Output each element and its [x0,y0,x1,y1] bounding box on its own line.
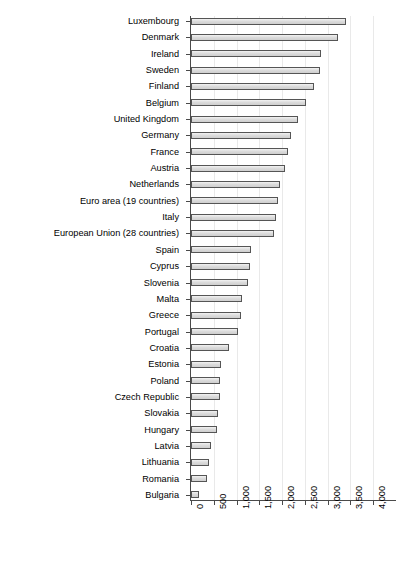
bar [191,312,241,319]
bar-row [191,81,396,91]
bar [191,328,238,335]
x-axis-tick-label: 500 [218,494,228,509]
bar-row [191,343,396,353]
bar [191,361,221,368]
bar-row [191,278,396,288]
bar-row [191,32,396,42]
y-axis-tick [186,217,190,218]
y-axis-tick [186,348,190,349]
x-axis-tick [373,500,374,505]
category-label: Germany [0,130,185,140]
x-axis-tick [282,500,283,505]
y-axis-tick [186,21,190,22]
bar-row [191,147,396,157]
bar [191,50,321,57]
category-label: Spain [0,245,185,255]
y-axis-tick [186,250,190,251]
bar [191,18,346,25]
y-axis-tick [186,479,190,480]
bar-row [191,408,396,418]
bar-row [191,49,396,59]
bar-row [191,130,396,140]
bar-row [191,179,396,189]
x-axis-tick-label: 0 [195,504,205,509]
category-label: Bulgaria [0,490,185,500]
x-axis-tick [214,500,215,505]
y-axis-tick [186,103,190,104]
x-axis-tick-label: 1,500 [263,486,273,509]
bar [191,344,229,351]
y-axis-tick [186,283,190,284]
category-label: Luxembourg [0,16,185,26]
bar-row [191,425,396,435]
bar-row [191,228,396,238]
x-axis-tick-label: 4,000 [377,486,387,509]
x-axis-tick [328,500,329,505]
x-axis-tick [305,500,306,505]
bar-row [191,245,396,255]
y-axis-tick [186,397,190,398]
bar [191,295,242,302]
y-axis-tick [186,332,190,333]
category-label: Slovakia [0,408,185,418]
category-label: European Union (28 countries) [0,228,185,238]
y-axis-tick [186,184,190,185]
bar [191,67,320,74]
y-axis-tick [186,168,190,169]
x-axis-tick [259,500,260,505]
y-axis-tick [186,266,190,267]
bar-row [191,261,396,271]
y-axis-tick [186,54,190,55]
bar-row [191,359,396,369]
bar-row [191,212,396,222]
bar [191,410,218,417]
category-label: Sweden [0,65,185,75]
category-label: Hungary [0,425,185,435]
x-axis-tick-label: 3,000 [332,486,342,509]
y-axis-tick [186,495,190,496]
plot-area: LuxembourgDenmarkIrelandSwedenFinlandBel… [0,0,396,562]
bar [191,426,217,433]
category-label: Poland [0,376,185,386]
bar-row [191,310,396,320]
y-axis-tick [186,299,190,300]
bar [191,165,285,172]
bar [191,34,338,41]
category-label: Finland [0,81,185,91]
y-axis-tick [186,119,190,120]
bar-row [191,457,396,467]
category-label: Malta [0,294,185,304]
bar [191,475,207,482]
category-label: Portugal [0,327,185,337]
bar [191,491,199,498]
bar-row [191,65,396,75]
x-axis-tick-labels: 05001,0001,5002,0002,5003,0003,5004,0004… [191,507,396,557]
bar [191,263,250,270]
bars-panel [191,16,396,500]
y-axis-tick [186,152,190,153]
y-axis-tick [186,413,190,414]
category-label: Netherlands [0,179,185,189]
bar [191,116,298,123]
y-axis-tick [186,37,190,38]
category-label: Ireland [0,49,185,59]
category-label: Latvia [0,441,185,451]
bar [191,132,291,139]
bar-row [191,98,396,108]
y-axis-tick [186,446,190,447]
bar-row [191,441,396,451]
y-axis-category-labels: LuxembourgDenmarkIrelandSwedenFinlandBel… [0,16,185,500]
x-axis-tick-label: 2,500 [309,486,319,509]
y-axis-tick [186,70,190,71]
category-label: Czech Republic [0,392,185,402]
bar-row [191,294,396,304]
bar [191,377,220,384]
bar [191,181,280,188]
category-label: Greece [0,310,185,320]
y-axis-tick [186,86,190,87]
y-axis-tick [186,462,190,463]
category-label: Denmark [0,32,185,42]
y-axis-tick [186,201,190,202]
bar-row [191,474,396,484]
category-label: Belgium [0,98,185,108]
